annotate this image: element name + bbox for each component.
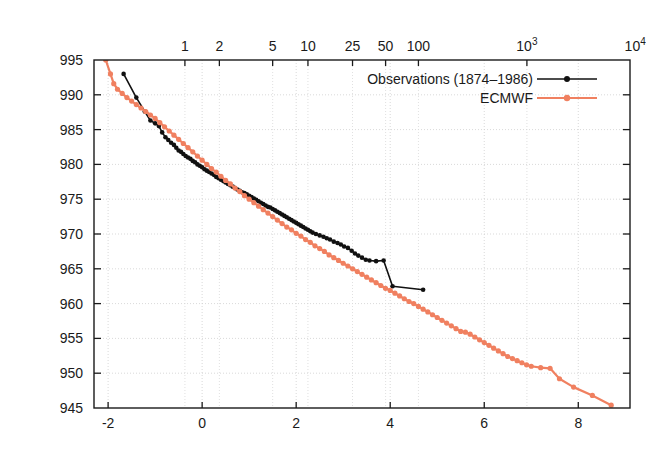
y-tick-label: 965 bbox=[60, 261, 84, 277]
chart-figure: Return period [years] Daily SLP [hPa] Gu… bbox=[0, 0, 646, 458]
y-tick-label: 980 bbox=[60, 156, 84, 172]
y-tick-label: 970 bbox=[60, 226, 84, 242]
legend-entry: Observations (1874–1986) bbox=[367, 71, 597, 87]
gridlines bbox=[94, 60, 630, 408]
legend-label: ECMWF bbox=[480, 90, 533, 106]
x-tick-label: -2 bbox=[102, 415, 115, 431]
y-tick-label: 995 bbox=[60, 52, 84, 68]
y-tick-label: 990 bbox=[60, 87, 84, 103]
top-tick-label: 2 bbox=[215, 38, 223, 54]
legend-marker bbox=[564, 95, 570, 101]
x-tick-label: 0 bbox=[198, 415, 206, 431]
y-tick-label: 950 bbox=[60, 365, 84, 381]
top-tick-label: 100 bbox=[407, 38, 431, 54]
y-tick-label: 955 bbox=[60, 330, 84, 346]
x-tick-label: 4 bbox=[386, 415, 394, 431]
top-tick-label: 25 bbox=[345, 38, 361, 54]
y-tick-label: 960 bbox=[60, 296, 84, 312]
x-tick-label: 8 bbox=[574, 415, 582, 431]
top-tick-label: 50 bbox=[378, 38, 394, 54]
axes-frame bbox=[0, 0, 646, 458]
series-ecmwf bbox=[103, 57, 614, 407]
y-tick-label: 985 bbox=[60, 122, 84, 138]
y-tick-label: 945 bbox=[60, 400, 84, 416]
top-tick-label: 10 bbox=[300, 38, 316, 54]
axis-ticks: -202468945950955960965970975980985990995… bbox=[60, 36, 646, 431]
x-tick-label: 6 bbox=[480, 415, 488, 431]
data-series-layer bbox=[103, 57, 614, 407]
top-tick-label: 5 bbox=[269, 38, 277, 54]
series-observations bbox=[121, 72, 425, 292]
legend-entry: ECMWF bbox=[480, 90, 597, 106]
top-tick-label: 1 bbox=[181, 38, 189, 54]
legend-label: Observations (1874–1986) bbox=[367, 71, 533, 87]
y-tick-label: 975 bbox=[60, 191, 84, 207]
legend-marker bbox=[564, 76, 570, 82]
x-tick-label: 2 bbox=[292, 415, 300, 431]
chart-legend: Observations (1874–1986)ECMWF bbox=[367, 71, 597, 106]
plot-area: -202468945950955960965970975980985990995… bbox=[0, 0, 646, 458]
